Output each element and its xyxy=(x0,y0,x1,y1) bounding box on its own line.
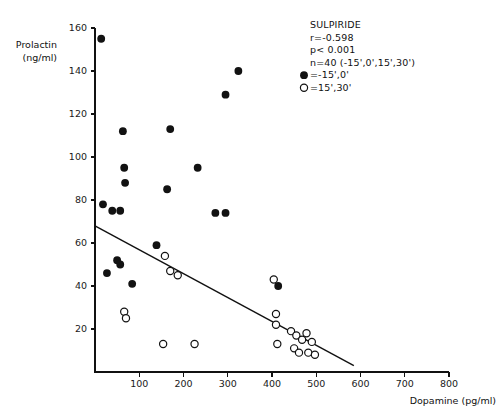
data-point-open xyxy=(272,321,279,328)
data-point-filled xyxy=(234,67,242,75)
legend-marker-open xyxy=(300,84,307,91)
data-point-open xyxy=(174,272,181,279)
data-point-filled xyxy=(103,269,111,277)
axis-lines xyxy=(95,28,449,372)
data-point-filled xyxy=(116,261,124,269)
data-point-open xyxy=(167,267,174,274)
y-tick-label: 20 xyxy=(75,323,87,334)
data-point-filled xyxy=(121,179,129,187)
data-point-filled xyxy=(128,280,136,288)
x-tick-label: 300 xyxy=(219,378,237,389)
data-point-filled xyxy=(116,207,124,215)
x-tick-label: 600 xyxy=(351,378,369,389)
data-points xyxy=(97,35,318,359)
y-tick-label: 140 xyxy=(69,65,87,76)
y-tick-label: 160 xyxy=(69,22,87,33)
data-point-open xyxy=(308,338,315,345)
data-point-filled xyxy=(97,35,105,43)
data-point-filled xyxy=(194,164,202,172)
x-axis-title: Dopamine (pg/ml) xyxy=(410,395,496,406)
y-tick-label: 120 xyxy=(69,108,87,119)
data-point-filled xyxy=(153,241,161,249)
data-point-filled xyxy=(163,185,171,193)
data-point-open xyxy=(191,340,198,347)
y-tick-label: 80 xyxy=(75,194,87,205)
plot-canvas: 2040608010012014016010020030040050060070… xyxy=(0,0,504,418)
data-point-open xyxy=(295,349,302,356)
data-point-open xyxy=(160,340,167,347)
data-point-filled xyxy=(119,127,127,135)
scatter-plot-figure: 2040608010012014016010020030040050060070… xyxy=(0,0,504,418)
data-point-filled xyxy=(99,200,107,208)
x-tick-label: 400 xyxy=(263,378,281,389)
data-point-open xyxy=(311,351,318,358)
data-point-open xyxy=(298,336,305,343)
pvalue-label: p< 0.001 xyxy=(310,44,355,55)
x-tick-label: 500 xyxy=(307,378,325,389)
data-point-open xyxy=(272,310,279,317)
legend-marker-filled xyxy=(300,71,308,79)
drug-label: SULPIRIDE xyxy=(310,19,361,30)
legend: SULPIRIDEr=-0.598p< 0.001n=40 (-15',0',1… xyxy=(300,19,415,93)
data-point-filled xyxy=(211,209,219,217)
data-point-open xyxy=(122,315,129,322)
data-point-filled xyxy=(222,91,230,99)
y-tick-label: 60 xyxy=(75,237,87,248)
legend-label-open: =15',30' xyxy=(310,82,352,93)
data-point-filled xyxy=(120,164,128,172)
y-tick-label: 100 xyxy=(69,151,87,162)
correlation-label: r=-0.598 xyxy=(310,32,354,43)
axes: 2040608010012014016010020030040050060070… xyxy=(69,22,458,389)
data-point-open xyxy=(161,252,168,259)
data-point-filled xyxy=(222,209,230,217)
data-point-open xyxy=(274,340,281,347)
data-point-filled xyxy=(108,207,116,215)
y-tick-label: 40 xyxy=(75,280,87,291)
x-tick-label: 200 xyxy=(174,378,192,389)
sample-size-label: n=40 (-15',0',15',30') xyxy=(310,57,415,68)
x-tick-label: 800 xyxy=(440,378,458,389)
legend-label-filled: =-15',0' xyxy=(310,69,349,80)
axis-labels: Prolactin(ng/ml)Dopamine (pg/ml) xyxy=(16,39,496,406)
data-point-filled xyxy=(166,125,174,133)
data-point-open xyxy=(303,330,310,337)
x-tick-label: 700 xyxy=(396,378,414,389)
data-point-open xyxy=(270,276,277,283)
y-axis-title-line1: Prolactin xyxy=(16,39,57,50)
x-tick-label: 100 xyxy=(130,378,148,389)
y-axis-title-line2: (ng/ml) xyxy=(22,52,57,63)
